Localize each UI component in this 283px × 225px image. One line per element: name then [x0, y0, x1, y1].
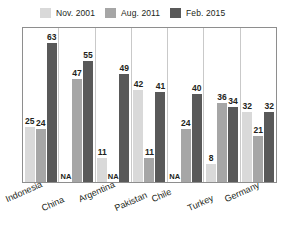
bar-slot: 42: [133, 28, 143, 182]
bar-groups: 252463NA475511NA49421141NA24408363432213…: [23, 28, 276, 182]
legend-item: Nov. 2001: [40, 8, 95, 18]
bar-group-bars: 83634: [204, 28, 239, 182]
bar: [253, 136, 263, 182]
plot-area: 252463NA475511NA49421141NA24408363432213…: [22, 27, 277, 183]
bar-group: NA2440: [168, 28, 204, 182]
bar-group: 252463: [23, 28, 59, 182]
bar-slot: 41: [155, 28, 165, 182]
bar-slot: 25: [25, 28, 35, 182]
bar-group-bars: NA4755: [59, 28, 94, 182]
bar: [97, 158, 107, 182]
bar-group-bars: 252463: [23, 28, 58, 182]
bar-group-bars: NA2440: [168, 28, 203, 182]
bar: [133, 90, 143, 182]
bar-value-label: 25: [25, 117, 34, 126]
bar-slot: 47: [72, 28, 82, 182]
bar: [155, 92, 165, 182]
bar-group-bars: 11NA49: [96, 28, 131, 182]
bar-na-label: NA: [61, 172, 72, 181]
bar-slot: 24: [36, 28, 46, 182]
legend-swatch-icon: [40, 8, 51, 18]
bar: [36, 129, 46, 182]
bar-group: 11NA49: [96, 28, 132, 182]
bar-slot: 63: [47, 28, 57, 182]
bar-slot: NA: [170, 28, 180, 182]
bar-slot: 36: [217, 28, 227, 182]
bar: [242, 112, 252, 182]
bar-slot: NA: [61, 28, 71, 182]
bar-slot: 49: [119, 28, 129, 182]
legend-item: Feb. 2015: [170, 8, 225, 18]
bar-chart: Nov. 2001Aug. 2011Feb. 2015 252463NA4755…: [0, 0, 283, 225]
bar: [83, 61, 93, 182]
bar-value-label: 41: [156, 82, 165, 91]
category-label: Chile: [150, 187, 173, 204]
bar-value-label: 49: [119, 64, 128, 73]
bar: [192, 94, 202, 182]
legend-item: Aug. 2011: [105, 8, 160, 18]
bar-slot: 55: [83, 28, 93, 182]
bar-group-bars: 322132: [241, 28, 276, 182]
category-label: Turkey: [186, 193, 215, 213]
category-label: China: [40, 194, 66, 213]
bar-value-label: 21: [254, 126, 263, 135]
legend-label: Nov. 2001: [56, 8, 95, 18]
bar-value-label: 24: [181, 119, 190, 128]
bar-na-label: NA: [169, 172, 180, 181]
bar-group-bars: 421141: [132, 28, 167, 182]
bar: [264, 112, 274, 182]
legend-label: Aug. 2011: [121, 8, 160, 18]
bar-value-label: 32: [265, 102, 274, 111]
legend-label: Feb. 2015: [186, 8, 225, 18]
bar: [181, 129, 191, 182]
bar-value-label: 42: [134, 80, 143, 89]
chart-legend: Nov. 2001Aug. 2011Feb. 2015: [40, 6, 280, 20]
bar: [228, 107, 238, 182]
bar: [119, 74, 129, 182]
bar-value-label: 11: [98, 148, 107, 157]
bar-value-label: 34: [228, 97, 237, 106]
bar-slot: 32: [264, 28, 274, 182]
bar: [206, 164, 216, 182]
category-label: Pakistan: [113, 190, 149, 213]
category-label: Indonesia: [4, 179, 44, 204]
bar-group: 322132: [241, 28, 276, 182]
bar-value-label: 40: [192, 84, 201, 93]
category-axis-labels: IndonesiaChinaArgentinaPakistanChileTurk…: [22, 183, 277, 225]
bar-group: NA4755: [59, 28, 95, 182]
bar-value-label: 32: [243, 102, 252, 111]
bar: [72, 79, 82, 182]
bar-slot: 8: [206, 28, 216, 182]
bar: [25, 127, 35, 182]
bar-group: 421141: [132, 28, 168, 182]
bar-slot: NA: [108, 28, 118, 182]
bar-slot: 32: [242, 28, 252, 182]
bar-value-label: 55: [83, 51, 92, 60]
bar-slot: 34: [228, 28, 238, 182]
bar-value-label: 36: [217, 93, 226, 102]
bar-value-label: 24: [36, 119, 45, 128]
legend-swatch-icon: [105, 8, 116, 18]
bar-value-label: 63: [47, 33, 56, 42]
bar-group: 83634: [204, 28, 240, 182]
bar: [217, 103, 227, 182]
category-label: Argentina: [77, 179, 116, 204]
bar-slot: 11: [97, 28, 107, 182]
bar: [144, 158, 154, 182]
bar-value-label: 8: [209, 154, 214, 163]
bar: [47, 43, 57, 182]
bar-slot: 40: [192, 28, 202, 182]
bar-slot: 11: [144, 28, 154, 182]
bar-value-label: 47: [72, 69, 81, 78]
bar-slot: 24: [181, 28, 191, 182]
legend-swatch-icon: [170, 8, 181, 18]
category-label: Germany: [223, 180, 261, 204]
bar-slot: 21: [253, 28, 263, 182]
bar-value-label: 11: [145, 148, 154, 157]
